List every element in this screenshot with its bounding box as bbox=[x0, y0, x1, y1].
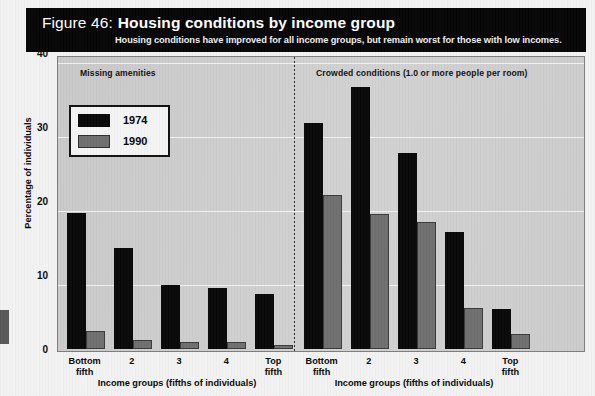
bar-missing-amenities-1974-2 bbox=[114, 248, 133, 349]
page-title: Housing conditions by income group bbox=[118, 14, 395, 31]
bar-missing-amenities-1990-1 bbox=[86, 331, 105, 349]
x-axis-tick-crowded-conditions-5: Topfifth bbox=[479, 356, 541, 377]
panel-divider bbox=[294, 57, 295, 351]
figure-page: Figure 46:Housing conditions by income g… bbox=[0, 0, 595, 396]
bar-missing-amenities-1990-5 bbox=[274, 345, 293, 349]
bar-crowded-conditions-1990-2 bbox=[370, 214, 389, 349]
y-axis-label: Percentage of individuals bbox=[23, 98, 33, 248]
y-axis-tick-0: 0 bbox=[22, 344, 48, 355]
bar-crowded-conditions-1990-3 bbox=[417, 222, 436, 349]
bar-crowded-conditions-1974-5 bbox=[492, 309, 511, 349]
panel-title-crowded-conditions: Crowded conditions (1.0 or more people p… bbox=[316, 68, 528, 78]
legend-swatch-1990 bbox=[78, 135, 110, 148]
banner-title-line: Figure 46:Housing conditions by income g… bbox=[42, 14, 395, 32]
bar-missing-amenities-1974-5 bbox=[255, 294, 274, 349]
banner-subtitle: Housing conditions have improved for all… bbox=[115, 35, 562, 45]
bar-crowded-conditions-1974-4 bbox=[445, 232, 464, 349]
bar-missing-amenities-1990-4 bbox=[227, 342, 246, 349]
y-axis-tick-40: 40 bbox=[22, 48, 48, 59]
legend-label-1974: 1974 bbox=[123, 114, 147, 126]
x-axis-label-right: Income groups (fifths of individuals) bbox=[299, 378, 529, 388]
bar-missing-amenities-1974-4 bbox=[208, 288, 227, 349]
plot-area: Missing amenities Crowded conditions (1.… bbox=[57, 56, 585, 352]
bar-missing-amenities-1974-1 bbox=[67, 213, 86, 349]
figure-number: Figure 46: bbox=[42, 14, 113, 31]
bar-missing-amenities-1974-3 bbox=[161, 285, 180, 349]
panel-title-missing-amenities: Missing amenities bbox=[80, 68, 156, 78]
y-axis-tick-10: 10 bbox=[22, 270, 48, 281]
bar-crowded-conditions-1974-2 bbox=[351, 87, 370, 349]
scan-edge-artifact bbox=[0, 310, 9, 344]
bar-crowded-conditions-1990-1 bbox=[323, 195, 342, 349]
bar-crowded-conditions-1974-3 bbox=[398, 153, 417, 349]
title-banner: Figure 46:Housing conditions by income g… bbox=[26, 8, 586, 52]
legend-swatch-1974 bbox=[78, 114, 110, 127]
bar-missing-amenities-1990-2 bbox=[133, 340, 152, 349]
bar-series-container bbox=[58, 57, 584, 351]
bar-missing-amenities-1990-3 bbox=[180, 342, 199, 349]
x-axis-label-left: Income groups (fifths of individuals) bbox=[62, 378, 292, 388]
bar-crowded-conditions-1990-4 bbox=[464, 308, 483, 349]
legend: 1974 1990 bbox=[69, 105, 170, 157]
legend-label-1990: 1990 bbox=[123, 135, 147, 147]
bar-crowded-conditions-1990-5 bbox=[511, 334, 530, 349]
bar-crowded-conditions-1974-1 bbox=[304, 123, 323, 349]
